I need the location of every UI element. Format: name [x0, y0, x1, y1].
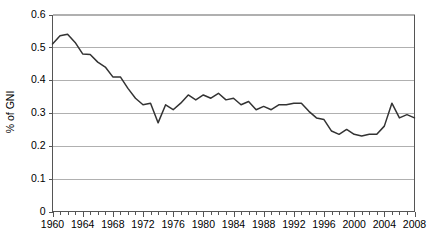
y-axis-tick-label: 0.2: [31, 139, 46, 151]
x-axis-tick-label: 1988: [252, 218, 276, 230]
data-series-line: [53, 34, 415, 136]
y-axis-tick-labels: 00.10.20.30.40.50.6: [31, 8, 46, 217]
line-chart: 00.10.20.30.40.50.6 19601964196819721976…: [0, 0, 439, 243]
y-axis-title: % of GNI: [4, 91, 16, 134]
chart-canvas: 00.10.20.30.40.50.6 19601964196819721976…: [0, 0, 439, 243]
data-line: [53, 34, 415, 136]
x-axis-tick-label: 2008: [403, 218, 427, 230]
x-axis-tick-label: 1972: [131, 218, 155, 230]
x-axis-tick-label: 1964: [71, 218, 95, 230]
x-axis-tick-label: 1976: [161, 218, 185, 230]
y-axis-tick-label: 0.1: [31, 172, 46, 184]
x-axis-tick-label: 1992: [282, 218, 306, 230]
x-axis-tick-label: 2000: [342, 218, 366, 230]
x-axis-tick-label: 1980: [192, 218, 216, 230]
x-axis-tick-label: 1996: [312, 218, 336, 230]
x-axis-tick-label: 1960: [41, 218, 65, 230]
y-axis-tick-label: 0.5: [31, 41, 46, 53]
x-axis-tick-label: 2004: [373, 218, 397, 230]
x-axis-tick-label: 1968: [101, 218, 125, 230]
y-axis-tick-label: 0: [40, 205, 46, 217]
x-axis-tick-label: 1984: [222, 218, 246, 230]
x-axis-tick-labels: 1960196419681972197619801984198819921996…: [41, 218, 427, 230]
y-axis-tick-label: 0.3: [31, 106, 46, 118]
x-axis-group: [53, 212, 416, 217]
y-axis-tick-label: 0.6: [31, 8, 46, 20]
y-axis-tick-label: 0.4: [31, 73, 46, 85]
